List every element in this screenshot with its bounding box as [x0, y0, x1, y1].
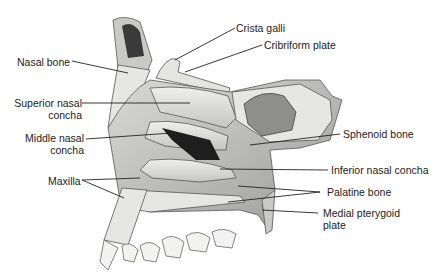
maxilla-anterior — [104, 188, 147, 245]
label-nasal-bone: Nasal bone — [17, 56, 70, 68]
label-medial-pterygoid-plate: Medial pterygoid plate — [323, 207, 400, 231]
label-superior-nasal-concha: Superior nasal concha — [10, 97, 82, 121]
label-palatine-bone: Palatine bone — [327, 186, 391, 198]
label-crista-galli: Crista galli — [236, 22, 285, 34]
label-middle-nasal-concha: Middle nasal concha — [10, 132, 84, 156]
label-cribriform-plate: Cribriform plate — [264, 39, 336, 51]
label-inferior-nasal-concha: Inferior nasal concha — [331, 164, 428, 176]
label-maxilla: Maxilla — [48, 175, 81, 187]
label-sphenoid-bone: Sphenoid bone — [343, 128, 414, 140]
